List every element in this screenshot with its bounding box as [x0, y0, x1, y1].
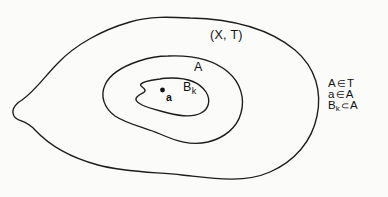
- label-open-set-A: A: [194, 61, 202, 74]
- label-basis-element-Bk: Bk: [183, 81, 196, 96]
- inner-blob-curve-basis-element-Bk: [136, 78, 209, 116]
- label-basis-element-subscript: k: [191, 86, 196, 96]
- label-point-a: a: [166, 92, 172, 103]
- subset-of-icon: ⊂: [340, 100, 350, 111]
- relation-1-left: A: [328, 77, 336, 89]
- middle-blob-curve-open-set-A: [103, 56, 243, 144]
- relation-2-right: A: [346, 88, 354, 100]
- relation-1-right: T: [347, 77, 354, 89]
- relations-list: A∈T a∈A Bk⊂A: [328, 78, 358, 112]
- point-a-dot: [160, 88, 165, 93]
- relation-3-left: B: [328, 99, 336, 111]
- relation-3-right: A: [350, 99, 358, 111]
- element-of-icon: ∈: [334, 89, 345, 100]
- topology-diagram: (X, T) A Bk a A∈T a∈A Bk⊂A: [0, 0, 388, 197]
- label-ambient-space: (X, T): [210, 29, 243, 42]
- relation-line-3: Bk⊂A: [328, 100, 358, 111]
